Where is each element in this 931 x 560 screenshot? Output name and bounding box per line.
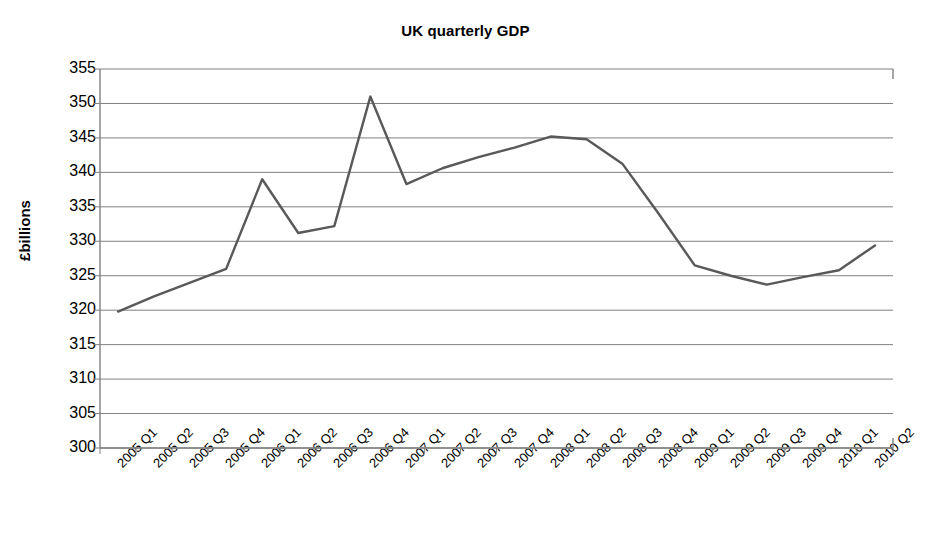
axis-lines bbox=[100, 69, 893, 448]
y-axis-ticks bbox=[94, 69, 100, 448]
chart-container: UK quarterly GDP £billions 3553503453403… bbox=[0, 0, 931, 560]
data-series-line bbox=[118, 97, 875, 312]
gridlines bbox=[100, 69, 893, 448]
plot-area bbox=[0, 0, 931, 560]
x-axis-ticks bbox=[100, 448, 893, 454]
